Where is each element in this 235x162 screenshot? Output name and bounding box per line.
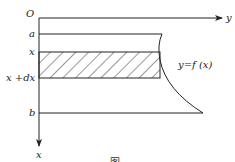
- curve-label: y=f (x): [177, 59, 212, 70]
- label-x: x: [29, 46, 35, 57]
- label-a: a: [29, 28, 35, 39]
- label-b: b: [29, 107, 35, 118]
- integral-strip-diagram: O y x a x x +dx b y=f (x) 图: [0, 0, 235, 162]
- figure-caption: 图: [110, 157, 120, 162]
- vertical-axis-label: x: [36, 149, 42, 160]
- label-x-plus-dx: x +dx: [6, 72, 36, 83]
- horizontal-axis-label: y: [225, 12, 232, 23]
- curve-f: [159, 34, 203, 113]
- hatched-strip: [39, 52, 160, 78]
- origin-label: O: [26, 8, 34, 19]
